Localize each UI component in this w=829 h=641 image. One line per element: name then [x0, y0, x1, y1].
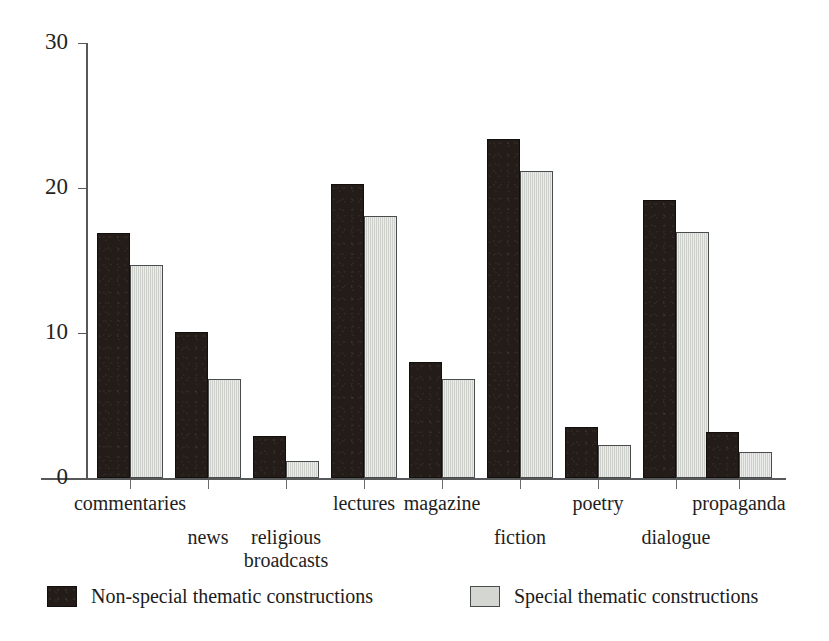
light-swatch — [470, 586, 500, 607]
y-axis-tick-label: 0 — [6, 465, 68, 488]
bar — [253, 436, 286, 478]
x-axis-tick — [442, 480, 443, 489]
bar — [364, 216, 397, 478]
x-axis-tick — [739, 480, 740, 489]
bar — [175, 332, 208, 478]
bar — [130, 265, 163, 478]
bar — [676, 232, 709, 479]
bar — [208, 379, 241, 478]
bar — [442, 379, 475, 478]
y-axis-tick — [78, 188, 86, 189]
bar — [643, 200, 676, 478]
bar — [520, 171, 553, 478]
y-axis-tick — [78, 43, 86, 44]
bar — [487, 139, 520, 478]
legend-entry: Special thematic constructions — [470, 585, 758, 607]
legend-label: Non-special thematic constructions — [91, 585, 373, 607]
bar — [565, 427, 598, 478]
x-axis-tick — [520, 480, 521, 489]
dark-swatch — [47, 586, 77, 607]
x-axis-tick — [130, 480, 131, 489]
x-axis-category-label: fiction — [430, 526, 610, 549]
bar — [286, 461, 319, 478]
bar — [331, 184, 364, 478]
bar-chart: 0102030 commentariesnewsreligious broadc… — [0, 0, 829, 641]
y-axis-tick — [78, 478, 86, 479]
x-axis-tick — [208, 480, 209, 489]
legend-entry: Non-special thematic constructions — [47, 585, 373, 607]
bar — [409, 362, 442, 478]
chart-legend: Non-special thematic constructionsSpecia… — [0, 585, 829, 625]
bar — [739, 452, 772, 478]
plot-area — [86, 43, 786, 478]
x-axis-category-label: dialogue — [586, 526, 766, 549]
bar — [97, 233, 130, 478]
y-axis-tick-label: 30 — [6, 30, 68, 53]
x-axis-tick — [598, 480, 599, 489]
x-axis-category-label: commentaries — [40, 492, 220, 515]
bar — [598, 445, 631, 478]
x-axis-category-label: magazine — [352, 492, 532, 515]
x-axis-tick — [676, 480, 677, 489]
x-axis-category-label: propaganda — [649, 492, 829, 515]
y-axis-tick-label: 20 — [6, 175, 68, 198]
x-axis-tick — [364, 480, 365, 489]
y-axis-tick — [78, 333, 86, 334]
bar — [706, 432, 739, 478]
x-axis-category-label: religious broadcasts — [196, 526, 376, 572]
legend-label: Special thematic constructions — [514, 585, 758, 607]
y-axis-tick-label: 10 — [6, 320, 68, 343]
x-axis-tick — [286, 480, 287, 489]
x-axis-line — [41, 478, 786, 480]
